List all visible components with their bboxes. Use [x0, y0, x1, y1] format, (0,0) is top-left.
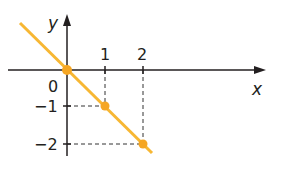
data-line — [20, 23, 152, 153]
point-2-neg2 — [139, 140, 148, 149]
y-tick-label-neg1: −1 — [34, 97, 58, 116]
point-1-neg1 — [101, 102, 110, 111]
x-axis-arrow-icon — [254, 66, 266, 74]
x-tick-label-1: 1 — [100, 45, 110, 64]
origin-label: 0 — [48, 77, 58, 96]
y-axis-arrow-icon — [63, 14, 71, 26]
x-tick-label-2: 2 — [137, 45, 147, 64]
y-tick-label-neg2: −2 — [34, 135, 58, 154]
x-axis-label: x — [251, 79, 263, 99]
point-origin — [62, 65, 72, 75]
y-axis-label: y — [47, 13, 59, 33]
coordinate-graph: y x 0 1 2 −1 −2 — [0, 0, 285, 174]
